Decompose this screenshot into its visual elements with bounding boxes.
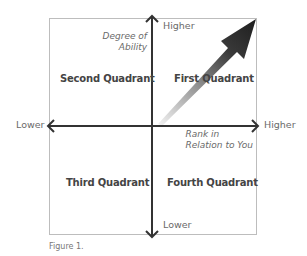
vertical-axis-top-label: Higher: [163, 20, 195, 31]
vertical-axis-title-line1: Degree of: [103, 31, 148, 42]
figure-caption: Figure 1.: [49, 242, 84, 251]
quadrant-diagram: Higher Degree of Ability Lower Lower Hig…: [0, 0, 307, 256]
horizontal-axis-title: Rank in Relation to You: [185, 129, 253, 151]
horizontal-axis-right-label: Higher: [264, 119, 296, 130]
vertical-axis-bottom-label: Lower: [163, 219, 191, 230]
quadrant-second-label: Second Quadrant: [60, 73, 155, 84]
vertical-axis-title-line2: Ability: [103, 42, 148, 53]
quadrant-fourth-label: Fourth Quadrant: [167, 177, 258, 188]
diagram-graphics: [0, 0, 307, 256]
horizontal-axis-left-label: Lower: [16, 119, 44, 130]
horizontal-axis-title-line2: Relation to You: [185, 140, 253, 151]
vertical-axis-title: Degree of Ability: [103, 31, 148, 53]
quadrant-first-label: First Quadrant: [174, 73, 254, 84]
horizontal-axis-title-line1: Rank in: [185, 129, 253, 140]
quadrant-third-label: Third Quadrant: [66, 177, 149, 188]
